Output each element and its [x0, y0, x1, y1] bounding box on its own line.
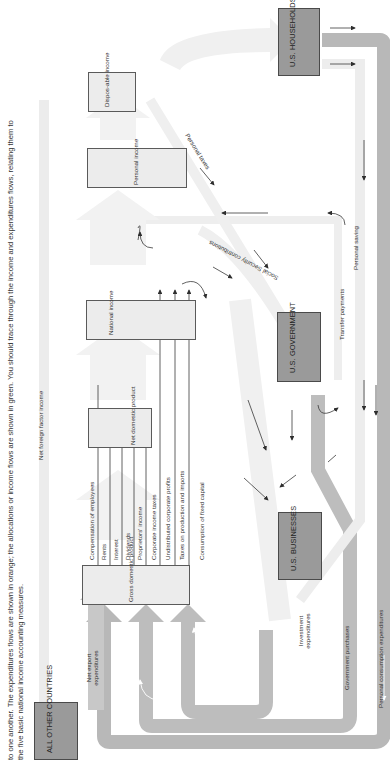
box-personal-income: Personal income: [87, 148, 187, 188]
households-label: U.S. HOUSEHOLDS: [289, 17, 298, 67]
sector-businesses: U.S. BUSINESSES: [278, 512, 322, 580]
component-proprietors-income: Proprietors' income: [136, 507, 143, 560]
component-dividends: Dividends: [124, 533, 131, 560]
faint-arrow-di-households: [160, 18, 292, 70]
government-label: U.S. GOVERNMENT: [289, 321, 298, 373]
national-income-label: National income: [107, 305, 114, 335]
sector-government: U.S. GOVERNMENT: [277, 312, 321, 382]
component-taxes-production-imports: Taxes on production and imports: [178, 471, 185, 560]
other-countries-label: ALL OTHER COUNTRIES: [46, 709, 55, 753]
component-compensation: Compensation of employees: [88, 482, 95, 560]
personal-income-label: Personal income: [132, 155, 139, 185]
label-investment-expenditures: Investment expenditures: [297, 609, 312, 653]
box-ndp: Net domestic product: [88, 408, 152, 448]
sector-other-countries: ALL OTHER COUNTRIES: [34, 702, 78, 760]
disposable-income-label: Dispos-able income: [103, 79, 110, 107]
band-investment: [188, 620, 266, 712]
faint-arrow-ni-pi: [76, 190, 160, 265]
label-transfer-payments: Transfer payments: [338, 289, 345, 340]
component-rents: Rents: [100, 544, 107, 560]
band-net-foreign-factor-income: [44, 100, 70, 748]
box-gdp: Gross domestic product: [82, 565, 190, 605]
label-net-foreign-factor-income: Net foreign factor income: [37, 391, 44, 460]
ndp-label: Net domestic product: [129, 415, 136, 445]
arrowhead-gov: [128, 604, 164, 622]
caption-line-2: the five basic national income accountin…: [16, 360, 25, 760]
box-national-income: National income: [86, 300, 196, 340]
component-consumption-fixed-capital: Consumption of fixed capital: [198, 482, 205, 560]
flow-diagram: [0, 0, 390, 766]
gdp-label: Gross domestic product: [127, 570, 134, 602]
arrowhead-inv: [170, 604, 206, 622]
component-undistributed-profits: Undistributed corporate profits: [164, 477, 171, 560]
label-government-purchases: Government purchases: [343, 626, 350, 690]
caption-line-1: to one another. The expenditures flows a…: [6, 0, 15, 760]
box-disposable-income: Dispos-able income: [88, 72, 136, 112]
component-corporate-income-taxes: Corporate income taxes: [150, 494, 157, 560]
label-net-export-expenditures: Net export expenditures: [85, 648, 100, 688]
band-ni-to-business: [240, 300, 280, 620]
label-personal-consumption: Personal consumption expenditures: [377, 610, 384, 708]
label-personal-saving: Personal saving: [352, 226, 359, 270]
component-interest: Interest: [112, 539, 119, 560]
sector-households: U.S. HOUSEHOLDS: [278, 8, 320, 76]
businesses-label: U.S. BUSINESSES: [290, 521, 299, 571]
